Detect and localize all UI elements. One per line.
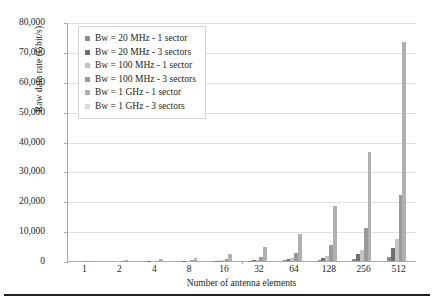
legend-item[interactable]: Bw = 100 MHz - 3 sectors	[85, 73, 196, 87]
bar-group-bars	[352, 22, 375, 261]
legend-label: Bw = 1 GHz - 1 sector	[95, 88, 181, 98]
legend-item[interactable]: Bw = 20 MHz - 3 sectors	[85, 46, 196, 60]
bar	[228, 254, 232, 261]
bar-group-bars	[318, 22, 341, 261]
x-tick-label: 32	[242, 264, 277, 274]
bar-group	[242, 22, 277, 261]
bar-group-bars	[248, 22, 271, 261]
y-tick-label: 10,000	[0, 226, 45, 236]
x-tick-label: 1	[67, 264, 102, 274]
legend-swatch-icon	[85, 77, 90, 82]
bar	[263, 247, 267, 261]
y-tick-label: 80,000	[0, 17, 45, 27]
bar	[194, 258, 198, 261]
legend: Bw = 20 MHz - 1 sectorBw = 20 MHz - 3 se…	[78, 26, 206, 119]
x-axis-title: Number of antenna elements	[67, 278, 416, 288]
bar-group	[207, 22, 242, 261]
bar-group-bars	[283, 22, 306, 261]
y-tick-label: 50,000	[0, 107, 45, 117]
bottom-divider	[4, 294, 430, 296]
legend-swatch-icon	[85, 90, 90, 95]
x-tick-label: 16	[207, 264, 242, 274]
y-tick-label: 60,000	[0, 77, 45, 87]
legend-item[interactable]: Bw = 1 GHz - 3 sectors	[85, 100, 196, 114]
legend-label: Bw = 20 MHz - 1 sector	[95, 34, 187, 44]
legend-item[interactable]: Bw = 100 MHz - 1 sector	[85, 59, 196, 73]
chart-figure: Raw data rate (Gbit/s) 010,00020,00030,0…	[0, 0, 434, 308]
x-tick-label: 8	[172, 264, 207, 274]
legend-label: Bw = 1 GHz - 3 sectors	[95, 102, 185, 112]
x-tick-label: 128	[311, 264, 346, 274]
bar-group-bars	[213, 22, 236, 261]
legend-swatch-icon	[85, 63, 90, 68]
bar-group-bars	[387, 22, 410, 261]
y-tick-label: 70,000	[0, 47, 45, 57]
bar	[333, 206, 337, 261]
legend-label: Bw = 100 MHz - 1 sector	[95, 61, 192, 71]
bar	[368, 152, 372, 261]
x-axis-ticks: 1248163264128256512	[67, 264, 416, 274]
legend-item[interactable]: Bw = 1 GHz - 1 sector	[85, 86, 196, 100]
bar	[298, 234, 302, 261]
x-tick-label: 4	[137, 264, 172, 274]
y-tick-label: 0	[0, 256, 45, 266]
bar-group	[381, 22, 416, 261]
x-tick-label: 64	[276, 264, 311, 274]
legend-item[interactable]: Bw = 20 MHz - 1 sector	[85, 32, 196, 46]
x-tick-mark	[242, 261, 243, 264]
legend-label: Bw = 20 MHz - 3 sectors	[95, 48, 191, 58]
y-tick-label: 20,000	[0, 196, 45, 206]
y-tick-mark	[64, 262, 68, 263]
x-tick-label: 256	[346, 264, 381, 274]
legend-swatch-icon	[85, 104, 90, 109]
x-tick-label: 2	[102, 264, 137, 274]
bar	[402, 42, 406, 261]
bar-group	[346, 22, 381, 261]
legend-swatch-icon	[85, 50, 90, 55]
y-tick-label: 40,000	[0, 137, 45, 147]
bar	[124, 260, 128, 261]
bar	[159, 259, 163, 261]
bar-group	[312, 22, 347, 261]
y-tick-label: 30,000	[0, 166, 45, 176]
legend-swatch-icon	[85, 36, 90, 41]
x-tick-label: 512	[381, 264, 416, 274]
legend-label: Bw = 100 MHz - 3 sectors	[95, 75, 196, 85]
bar-group	[277, 22, 312, 261]
